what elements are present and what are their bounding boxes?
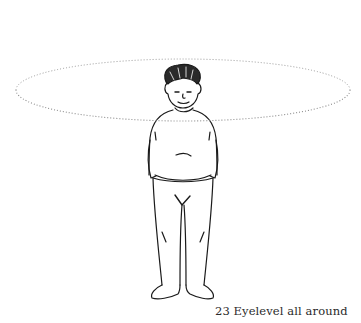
- belly-line: [176, 154, 191, 156]
- right-leg-outer: [204, 178, 213, 285]
- shoulders: [149, 110, 173, 175]
- left-leg-outer: [153, 178, 162, 285]
- boy-figure: [148, 64, 218, 298]
- mouth: [178, 102, 189, 104]
- hair: [165, 64, 201, 84]
- figure-caption: 23 Eyelevel all around: [215, 304, 348, 318]
- right-shoe: [186, 285, 213, 299]
- nose: [183, 94, 185, 98]
- left-shoe: [152, 285, 180, 299]
- crotch: [180, 205, 186, 285]
- sweater-hem: [155, 175, 211, 180]
- illustration: [0, 0, 361, 323]
